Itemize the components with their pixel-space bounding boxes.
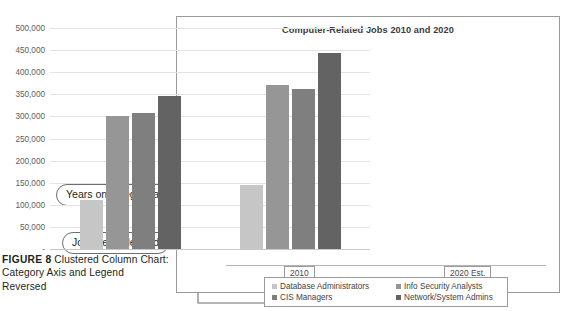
legend-swatch-icon (272, 284, 277, 289)
bar-cis-managers-2010 (132, 113, 155, 249)
y-axis-tick-label: - (42, 245, 45, 254)
y-axis-tick-label: 400,000 (15, 68, 45, 77)
legend-swatch-icon (396, 295, 401, 300)
bar-database-administrators-2010 (80, 200, 103, 249)
y-axis-tick-label: 300,000 (15, 112, 45, 121)
gridline (50, 249, 370, 250)
legend-label: Network/System Admins (404, 293, 493, 302)
legend-swatch-icon (272, 295, 277, 300)
bar-info-security-analysts-2020-est- (266, 85, 289, 249)
y-axis-tick-label: 200,000 (15, 156, 45, 165)
figure-caption: FIGURE 8 Clustered Column Chart: Categor… (2, 253, 170, 293)
bar-info-security-analysts-2010 (106, 116, 129, 249)
bar-network-system-admins-2020-est- (318, 53, 341, 249)
legend-item-network-system-admins: Network/System Admins (396, 293, 493, 302)
gridline (50, 28, 370, 29)
legend-label: Database Administrators (280, 282, 369, 291)
y-axis-tick-label: 350,000 (15, 90, 45, 99)
y-axis-tick-label: 50,000 (20, 222, 45, 231)
y-axis-tick-label: 150,000 (15, 178, 45, 187)
legend-label: Info Security Analysts (404, 282, 482, 291)
y-axis-tick-label: 250,000 (15, 134, 45, 143)
category-axis-line (226, 265, 546, 266)
legend-item-database-administrators: Database Administrators (272, 282, 396, 291)
figure-number: FIGURE 8 (2, 254, 51, 265)
bar-database-administrators-2020-est- (240, 185, 263, 249)
y-axis-tick-label: 100,000 (15, 200, 45, 209)
bar-network-system-admins-2010 (158, 96, 181, 249)
chart-legend: Database Administrators Info Security An… (264, 277, 508, 307)
legend-item-cis-managers: CIS Managers (272, 293, 396, 302)
legend-swatch-icon (396, 284, 401, 289)
legend-row: CIS Managers Network/System Admins (272, 292, 501, 303)
bar-cis-managers-2020-est- (292, 89, 315, 249)
gridline (50, 50, 370, 51)
legend-label: CIS Managers (280, 293, 332, 302)
y-axis-tick-label: 500,000 (15, 24, 45, 33)
legend-item-info-security-analysts: Info Security Analysts (396, 282, 482, 291)
legend-row: Database Administrators Info Security An… (272, 281, 501, 292)
y-axis-tick-label: 450,000 (15, 46, 45, 55)
